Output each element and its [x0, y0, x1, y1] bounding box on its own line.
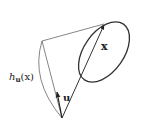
vector-x-arrow: [62, 25, 104, 118]
direction-line: [42, 41, 62, 118]
label-x: x: [101, 40, 108, 53]
support-length-brace: [39, 41, 62, 118]
label-support-function: hu(x): [9, 71, 34, 84]
vector-u-arrow: [57, 92, 62, 118]
label-u: u: [63, 92, 70, 103]
support-function-diagram: x u hu(x): [0, 0, 149, 130]
label-h-argument: (x): [21, 71, 35, 82]
